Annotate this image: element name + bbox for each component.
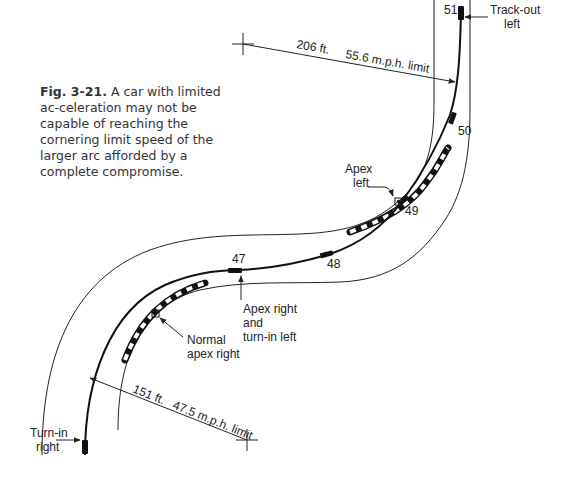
annotations: Track-out left Apex left Apex right and … [30, 3, 541, 454]
turn-in-label-line2: right [36, 440, 60, 454]
track-out-label-line1: Track-out [490, 3, 541, 17]
track-edge-outer-left [42, 0, 434, 455]
upper-distance-label: 206 ft. [295, 37, 330, 57]
track-out-label-line2: left [504, 17, 521, 31]
turn-in-label-line1: Turn-in [30, 426, 68, 440]
car-label-51: 51 [444, 3, 458, 17]
car-51 [458, 6, 464, 20]
apex-right-label-line3: turn-in left [243, 330, 297, 344]
apex-right-label-line2: and [243, 316, 263, 330]
curb-apex-left-stripes [350, 148, 448, 232]
curb-apex-left-base [350, 148, 448, 232]
car-label-47: 47 [232, 252, 246, 266]
apex-left-label-line1: Apex [345, 162, 372, 176]
upper-speed-label: 55.6 m.p.h. limit [344, 47, 430, 76]
normal-apex-label-line2: apex right [187, 347, 240, 361]
car-47 [228, 268, 242, 273]
apex-right-label-line1: Apex right [243, 302, 298, 316]
lower-speed-label: 47.5 m.p.h. limit [171, 398, 255, 443]
car-label-48: 48 [327, 257, 341, 271]
curbs [125, 148, 448, 360]
normal-apex-label-line1: Normal [187, 333, 226, 347]
car-turn-in [82, 440, 88, 454]
apex-left-label-line2: left [353, 176, 370, 190]
lower-distance-label: 151 ft. [131, 382, 167, 407]
apex-markers [152, 198, 402, 317]
dimension-lower: 151 ft. 47.5 m.p.h. limit [90, 378, 258, 451]
dimension-upper: 206 ft. 55.6 m.p.h. limit [232, 33, 455, 82]
car-label-50: 50 [458, 124, 472, 138]
car-label-49: 49 [405, 204, 419, 218]
track-diagram: 206 ft. 55.6 m.p.h. limit 151 ft. 47.5 m… [0, 0, 563, 479]
